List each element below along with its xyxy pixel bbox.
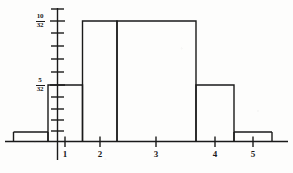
bar-2 [83, 21, 118, 142]
y-axis-label-10-32: 10 32 [29, 13, 51, 30]
bar-4 [196, 85, 234, 142]
histogram-screenshot: 10 32 5 32 1 2 3 4 5 [0, 0, 293, 173]
y-axis-label-5-32: 5 32 [29, 77, 51, 94]
x-axis-label-2: 2 [92, 149, 108, 159]
y-axis-label-10-32-denominator: 32 [29, 22, 51, 30]
x-axis-label-5: 5 [245, 149, 261, 159]
y-axis-label-5-32-numerator: 5 [29, 77, 51, 85]
y-axis-label-5-32-denominator: 32 [29, 86, 51, 94]
bar-series [14, 21, 273, 142]
y-axis-label-10-32-numerator: 10 [29, 13, 51, 21]
x-axis-label-3: 3 [148, 149, 164, 159]
bar-3 [117, 21, 196, 142]
bar-1 [48, 85, 83, 142]
x-axis-label-1: 1 [57, 149, 73, 159]
bar-0 [14, 132, 49, 142]
x-axis-label-4: 4 [207, 149, 223, 159]
histogram-chart: 10 32 5 32 1 2 3 4 5 [0, 0, 293, 173]
